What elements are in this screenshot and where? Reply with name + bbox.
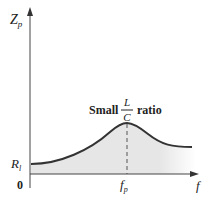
x-axis-label: f (196, 178, 202, 193)
annotation-suffix: ratio (137, 103, 162, 117)
y-axis-arrow-icon (27, 7, 33, 16)
origin-label: 0 (17, 178, 23, 192)
y-axis-label: Zp (10, 12, 23, 29)
fraction-denominator: C (123, 111, 131, 123)
fraction-numerator: L (123, 96, 130, 108)
peak-frequency-label: fp (120, 177, 128, 194)
area-under-curve (31, 123, 196, 174)
baseline-label: Rl (10, 156, 22, 173)
annotation-prefix: Small (89, 103, 119, 117)
impedance-diagram: Zp Rl 0 fp f Small L C ratio (0, 0, 217, 206)
